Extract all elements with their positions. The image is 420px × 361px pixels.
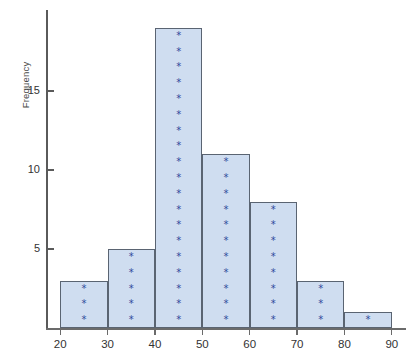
data-marker-asterisk: * <box>267 315 279 325</box>
x-tick-mark <box>249 329 250 335</box>
y-tick-mark <box>46 248 54 249</box>
x-axis-line <box>46 328 406 330</box>
x-tick-label: 20 <box>45 338 75 350</box>
histogram-chart: Frequency 51015*************************… <box>0 0 420 361</box>
data-marker-asterisk: * <box>220 284 232 294</box>
data-marker-asterisk: * <box>173 268 185 278</box>
data-marker-asterisk: * <box>173 205 185 215</box>
data-marker-asterisk: * <box>220 189 232 199</box>
data-marker-asterisk: * <box>267 252 279 262</box>
x-tick-label: 60 <box>235 338 265 350</box>
data-marker-asterisk: * <box>173 220 185 230</box>
data-marker-asterisk: * <box>362 315 374 325</box>
y-tick-mark <box>46 90 54 91</box>
data-marker-asterisk: * <box>125 315 137 325</box>
data-marker-asterisk: * <box>173 126 185 136</box>
x-tick-mark <box>202 329 203 335</box>
data-marker-asterisk: * <box>173 315 185 325</box>
data-marker-asterisk: * <box>173 141 185 151</box>
data-marker-asterisk: * <box>173 189 185 199</box>
data-marker-asterisk: * <box>315 315 327 325</box>
x-tick-mark <box>391 329 392 335</box>
x-tick-mark <box>107 329 108 335</box>
x-tick-mark <box>344 329 345 335</box>
data-marker-asterisk: * <box>173 173 185 183</box>
y-tick-label: 5 <box>14 242 40 254</box>
data-marker-asterisk: * <box>173 110 185 120</box>
x-tick-label: 70 <box>282 338 312 350</box>
data-marker-asterisk: * <box>173 299 185 309</box>
data-marker-asterisk: * <box>173 157 185 167</box>
data-marker-asterisk: * <box>267 299 279 309</box>
data-marker-asterisk: * <box>125 299 137 309</box>
data-marker-asterisk: * <box>173 62 185 72</box>
data-marker-asterisk: * <box>267 236 279 246</box>
x-tick-label: 40 <box>140 338 170 350</box>
data-marker-asterisk: * <box>220 268 232 278</box>
y-tick-label: 15 <box>14 84 40 96</box>
x-tick-mark <box>154 329 155 335</box>
data-marker-asterisk: * <box>220 173 232 183</box>
data-marker-asterisk: * <box>173 252 185 262</box>
data-marker-asterisk: * <box>220 220 232 230</box>
data-marker-asterisk: * <box>173 47 185 57</box>
x-tick-mark <box>60 329 61 335</box>
data-marker-asterisk: * <box>173 94 185 104</box>
data-marker-asterisk: * <box>173 284 185 294</box>
data-marker-asterisk: * <box>173 78 185 88</box>
data-marker-asterisk: * <box>125 252 137 262</box>
y-tick-label: 10 <box>14 163 40 175</box>
data-marker-asterisk: * <box>220 205 232 215</box>
data-marker-asterisk: * <box>220 252 232 262</box>
x-tick-mark <box>296 329 297 335</box>
data-marker-asterisk: * <box>173 31 185 41</box>
data-marker-asterisk: * <box>220 157 232 167</box>
data-marker-asterisk: * <box>173 236 185 246</box>
data-marker-asterisk: * <box>78 315 90 325</box>
data-marker-asterisk: * <box>78 284 90 294</box>
y-tick-mark <box>46 169 54 170</box>
data-marker-asterisk: * <box>78 299 90 309</box>
data-marker-asterisk: * <box>125 284 137 294</box>
data-marker-asterisk: * <box>267 220 279 230</box>
x-tick-label: 50 <box>187 338 217 350</box>
data-marker-asterisk: * <box>267 284 279 294</box>
data-marker-asterisk: * <box>125 268 137 278</box>
data-marker-asterisk: * <box>220 236 232 246</box>
data-marker-asterisk: * <box>220 315 232 325</box>
x-tick-label: 90 <box>377 338 407 350</box>
data-marker-asterisk: * <box>315 284 327 294</box>
data-marker-asterisk: * <box>220 299 232 309</box>
x-tick-label: 30 <box>93 338 123 350</box>
data-marker-asterisk: * <box>315 299 327 309</box>
x-tick-label: 80 <box>329 338 359 350</box>
data-marker-asterisk: * <box>267 205 279 215</box>
data-marker-asterisk: * <box>267 268 279 278</box>
